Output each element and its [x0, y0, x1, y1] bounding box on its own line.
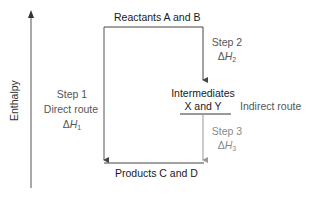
direct-route-label: Direct route: [39, 103, 103, 115]
delta-h2-label: ΔH2: [209, 50, 245, 66]
enthalpy-axis: [28, 10, 34, 188]
delta-h1-label: ΔH1: [47, 118, 97, 134]
axis-arrow-icon: [28, 10, 34, 18]
indirect-route-label: Indirect route: [240, 100, 301, 112]
step2-label: Step 2: [209, 36, 245, 48]
intermediates-label: Intermediates: [170, 87, 236, 99]
products-label: Products C and D: [115, 167, 198, 179]
step3-label: Step 3: [209, 125, 245, 137]
intermediates-species-label: X and Y: [170, 100, 236, 112]
enthalpy-axis-label: Enthalpy: [8, 81, 20, 121]
step1-label: Step 1: [47, 88, 97, 100]
delta-h3-label: ΔH3: [209, 139, 245, 155]
reactants-label: Reactants A and B: [114, 11, 200, 23]
